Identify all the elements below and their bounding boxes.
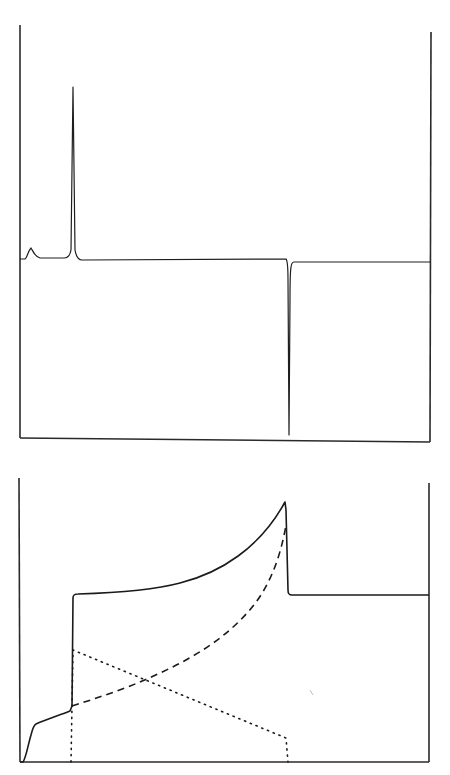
total-curve: [20, 502, 429, 762]
lower-left-axis: [19, 478, 20, 762]
figure-canvas: [0, 0, 450, 775]
falling-component-curve: [71, 650, 288, 762]
upper-right-axis: [430, 32, 431, 442]
lower-panel: [19, 478, 429, 762]
upper-signal-trace: [20, 87, 430, 435]
upper-panel: [20, 25, 431, 442]
upper-bottom-axis: [20, 438, 430, 442]
rising-component-curve: [72, 525, 286, 706]
scan-artifact-mark: [310, 690, 313, 695]
